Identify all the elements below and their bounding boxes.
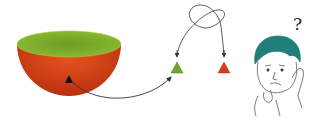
question-mark: ? — [293, 14, 302, 34]
eyebrows — [265, 65, 285, 66]
puzzled-person — [255, 36, 304, 116]
left-eye — [267, 69, 269, 71]
hand-chin — [263, 90, 272, 102]
loop-arrows — [177, 5, 225, 57]
triangle-green — [171, 62, 183, 73]
loop-curve — [177, 5, 225, 56]
hair — [255, 36, 301, 64]
triangle-red — [218, 62, 230, 73]
mouth — [270, 83, 281, 85]
bowl — [17, 31, 121, 96]
bowl-top — [17, 31, 121, 57]
right-eye — [281, 69, 283, 71]
body — [255, 96, 280, 116]
hand-temple — [292, 68, 303, 108]
diagram-canvas — [0, 0, 329, 122]
face — [257, 62, 296, 93]
nose — [273, 72, 277, 80]
